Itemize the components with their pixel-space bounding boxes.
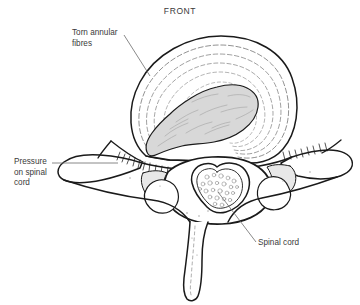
spine-cross-section-illustration [0, 0, 360, 305]
label-spinal-cord: Spinal cord [258, 238, 299, 249]
leader-torn-annular [124, 35, 150, 76]
spinous-process [184, 222, 208, 301]
left-facet-joint [144, 180, 178, 213]
label-pressure-on-spinal-cord: Pressure on spinal cord [14, 157, 47, 189]
vertebra-group [58, 140, 352, 301]
left-transverse-process [58, 155, 142, 183]
anatomy-figure: FRONT [0, 0, 360, 305]
disc-group [131, 36, 297, 163]
label-torn-annular-fibres: Torn annular fibres [72, 28, 118, 49]
